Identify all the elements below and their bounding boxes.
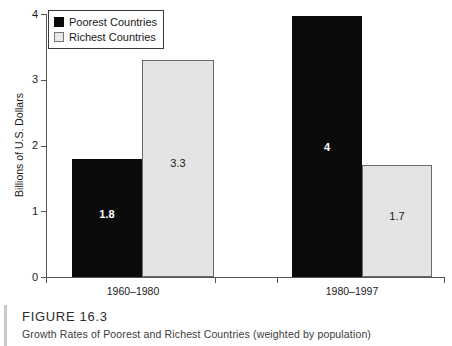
legend-label-poorest: Poorest Countries [69,16,157,28]
x-tick-mark-mid-2 [277,278,278,283]
legend-label-richest: Richest Countries [69,31,156,43]
legend-item-poorest[interactable]: Poorest Countries [54,14,157,29]
figure-number: FIGURE 16.3 [22,309,108,324]
bar-poorest-1960-1980[interactable]: 1.8 [72,159,142,277]
y-tick-label-0: 0 [10,272,38,283]
bar-value-label: 3.3 [143,157,213,169]
bar-value-label: 1.8 [73,208,141,220]
x-tick-mark-mid-1 [215,278,216,283]
legend-item-richest[interactable]: Richest Countries [54,29,157,44]
bar-value-label: 4 [293,141,361,153]
bar-poorest-1980-1997[interactable]: 4 [292,16,362,277]
bar-chart: 4 3 2 1 0 Billions of U.S. Dollars 1.8 3… [0,0,452,300]
light-square-icon [54,32,64,42]
x-tick-mark-left [46,278,47,283]
bar-richest-1980-1997[interactable]: 1.7 [362,165,432,277]
y-tick-mark-2 [41,146,47,147]
figure-title: Growth Rates of Poorest and Richest Coun… [22,328,371,340]
y-tick-mark-3 [41,80,47,81]
y-tick-mark-4 [41,14,47,15]
x-tick-mark-right [444,278,445,283]
figure-caption: FIGURE 16.3 Growth Rates of Poorest and … [0,303,452,346]
dark-square-icon [54,17,64,27]
x-axis-line [46,277,445,278]
bar-value-label: 1.7 [363,210,431,222]
x-category-label-1960-1980: 1960–1980 [78,285,188,297]
bar-richest-1960-1980[interactable]: 3.3 [142,60,214,277]
y-tick-label-4: 4 [10,9,38,20]
figure-container: 4 3 2 1 0 Billions of U.S. Dollars 1.8 3… [0,0,452,346]
y-axis-title: Billions of U.S. Dollars [13,50,25,240]
chart-legend: Poorest Countries Richest Countries [48,10,164,49]
x-category-label-1980-1997: 1980–1997 [297,285,407,297]
y-tick-mark-1 [41,211,47,212]
